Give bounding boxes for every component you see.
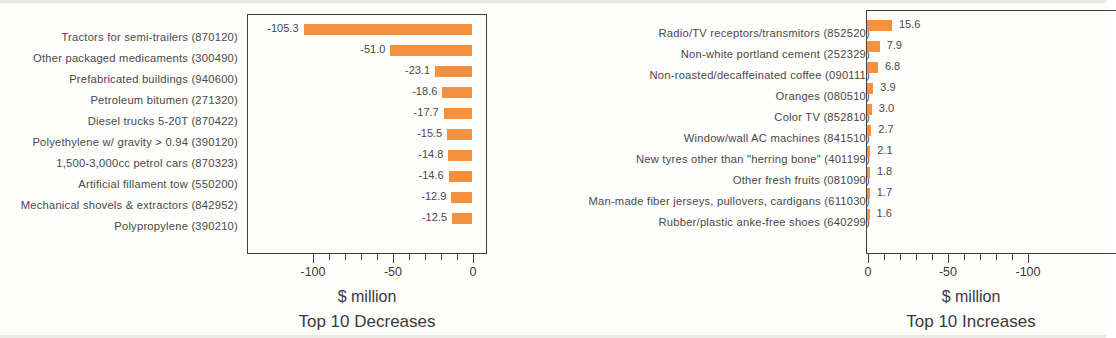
bar [442, 87, 472, 98]
category-label: Non-white portland cement (252329) [681, 44, 870, 65]
axis-tick-minor [409, 254, 410, 260]
category-label: Window/wall AC machines (841510) [684, 128, 870, 149]
bar [452, 213, 472, 224]
axis-tick-minor [329, 254, 330, 260]
bar [447, 129, 472, 140]
axis-tick-minor [916, 254, 917, 260]
category-label: Mechanical shovels & extractors (842952) [21, 195, 238, 216]
axis-tick-minor [1012, 254, 1013, 260]
axis-tick-major [393, 254, 394, 263]
bar [448, 150, 472, 161]
bar [867, 209, 870, 220]
axis-tick-major [1028, 254, 1029, 263]
axis-tick-minor [996, 254, 997, 260]
bar [867, 125, 871, 136]
axis-tick-minor [900, 254, 901, 260]
chart-title-decreases: Top 10 Decreases [247, 312, 487, 332]
bar [451, 192, 472, 203]
axis-tick-minor [425, 254, 426, 260]
category-label: Other packaged medicaments (300490) [33, 48, 238, 69]
axis-tick-major [868, 254, 869, 263]
bar [867, 104, 872, 115]
axis-tick-label: -50 [384, 265, 402, 279]
axis-tick-label: -100 [300, 265, 325, 279]
axis-tick-label: -100 [1015, 265, 1040, 279]
bar [867, 167, 870, 178]
bar [867, 20, 892, 31]
bar [449, 171, 472, 182]
axis-tick-minor [932, 254, 933, 260]
bar [867, 146, 870, 157]
axis-tick-minor [441, 254, 442, 260]
category-label: Polyethylene w/ gravity > 0.94 (390120) [32, 132, 238, 153]
x-axis-title-increases: $ million [866, 288, 1076, 306]
bar [867, 41, 880, 52]
category-label: Polypropylene (390210) [114, 216, 238, 237]
category-label: Man-made fiber jerseys, pullovers, cardi… [588, 191, 870, 212]
bar [867, 188, 870, 199]
category-label: Non-roasted/decaffeinated coffee (090111… [650, 65, 870, 86]
plot-area-increases [866, 10, 1116, 254]
chart-panel-decreases: Tractors for semi-trailers (870120)Other… [0, 0, 530, 338]
axis-tick-major [313, 254, 314, 263]
x-axis-decreases: -100-500 [247, 254, 487, 284]
category-label: Tractors for semi-trailers (870120) [61, 27, 238, 48]
category-label: Petroleum bitumen (271320) [90, 90, 238, 111]
axis-tick-label: 0 [865, 265, 872, 279]
axis-tick-minor [964, 254, 965, 260]
category-label: New tyres other than "herring bone" (401… [636, 149, 870, 170]
bar [435, 66, 472, 77]
category-label: Artificial fillament tow (550200) [78, 174, 238, 195]
bar [304, 24, 472, 35]
category-label: Oranges (080510) [776, 86, 870, 107]
axis-tick-minor [377, 254, 378, 260]
bar [390, 45, 472, 56]
category-label: Diesel trucks 5-20T (870422) [88, 111, 238, 132]
bar [867, 83, 873, 94]
category-label: 1,500-3,000cc petrol cars (870323) [56, 153, 238, 174]
x-axis-increases: 0-50-100 [866, 254, 1116, 284]
plot-area-decreases [247, 14, 487, 254]
category-label: Rubber/plastic anke-free shoes (640299) [659, 212, 870, 233]
axis-tick-major [473, 254, 474, 263]
axis-tick-label: -50 [939, 265, 957, 279]
axis-tick-major [948, 254, 949, 263]
category-label: Radio/TV receptors/transmitors (852520) [659, 23, 870, 44]
bar [444, 108, 472, 119]
chart-title-increases: Top 10 Increases [866, 312, 1076, 332]
axis-tick-minor [361, 254, 362, 260]
axis-tick-minor [980, 254, 981, 260]
axis-tick-minor [345, 254, 346, 260]
axis-tick-label: 0 [470, 265, 477, 279]
bar [867, 62, 878, 73]
category-label: Other fresh fruits (081090) [733, 170, 870, 191]
category-label: Color TV (852810) [774, 107, 870, 128]
category-label: Prefabricated buildings (940600) [69, 69, 238, 90]
axis-tick-minor [884, 254, 885, 260]
axis-tick-minor [457, 254, 458, 260]
x-axis-title-decreases: $ million [247, 288, 487, 306]
